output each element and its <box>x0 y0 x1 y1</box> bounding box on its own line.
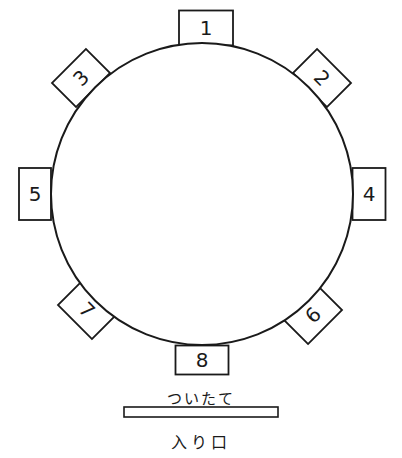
seat-number: 1 <box>200 16 213 40</box>
screen-label: ついたて <box>0 387 402 408</box>
entrance-label: 入り口 <box>0 429 402 453</box>
seat-4: 4 <box>353 168 386 220</box>
seat-5: 5 <box>19 168 51 220</box>
seat-number: 4 <box>363 182 376 206</box>
round-table <box>51 43 353 345</box>
seat-1: 1 <box>179 11 233 46</box>
seat-number: 5 <box>29 182 42 206</box>
seat-number: 8 <box>196 348 209 372</box>
seat-8: 8 <box>176 346 229 375</box>
folding-screen <box>124 407 278 417</box>
